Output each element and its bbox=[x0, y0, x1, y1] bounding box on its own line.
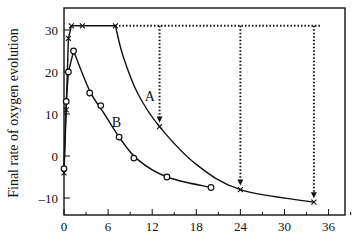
curve-b-decay bbox=[74, 51, 211, 188]
x-tick-label: 0 bbox=[61, 219, 68, 234]
circle-marker-icon bbox=[98, 103, 104, 109]
y-tick-label: –10 bbox=[38, 191, 59, 206]
y-tick-label: 0 bbox=[52, 149, 59, 164]
curve-labels: AB bbox=[112, 89, 156, 129]
circle-marker-icon bbox=[116, 134, 122, 140]
x-tick-label: 6 bbox=[105, 219, 112, 234]
x-tick-label: 18 bbox=[190, 219, 203, 234]
y-tick-label: 10 bbox=[45, 107, 58, 122]
x-marker-icon bbox=[157, 124, 162, 129]
circle-marker-icon bbox=[87, 90, 93, 96]
x-tick-label: 30 bbox=[278, 219, 291, 234]
axis-ticks: 061218243036–100102030 bbox=[38, 23, 351, 234]
arrow-head-icon bbox=[237, 180, 243, 186]
x-tick-label: 24 bbox=[234, 219, 248, 234]
data-curves bbox=[64, 26, 314, 202]
data-markers bbox=[61, 23, 316, 204]
arrow-head-icon bbox=[157, 117, 163, 123]
circle-marker-icon bbox=[131, 155, 137, 161]
circle-marker-icon bbox=[71, 48, 77, 54]
dotted-annotations bbox=[115, 26, 321, 198]
plot-border bbox=[64, 8, 345, 215]
x-tick-label: 12 bbox=[146, 219, 159, 234]
curve-a-decay bbox=[115, 26, 313, 202]
circle-marker-icon bbox=[164, 174, 170, 180]
y-tick-label: 20 bbox=[45, 65, 58, 80]
y-tick-label: 30 bbox=[45, 23, 58, 38]
curve-a-rise bbox=[64, 26, 115, 173]
curve-label-a: A bbox=[145, 89, 156, 104]
x-tick-label: 36 bbox=[322, 219, 336, 234]
circle-marker-icon bbox=[208, 185, 214, 191]
circle-marker-icon bbox=[66, 69, 72, 75]
arrow-head-icon bbox=[311, 192, 317, 198]
axes-frame bbox=[64, 8, 345, 215]
circle-marker-icon bbox=[61, 166, 67, 172]
chart-canvas: 061218243036–100102030 AB bbox=[0, 0, 353, 248]
curve-label-b: B bbox=[112, 115, 121, 130]
circle-marker-icon bbox=[63, 99, 69, 105]
